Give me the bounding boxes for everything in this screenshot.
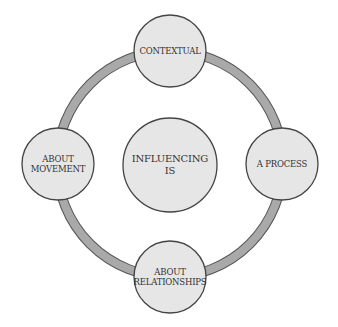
node-label-line: ABOUT: [42, 154, 73, 164]
node-label-contextual: CONTEXTUAL: [134, 15, 206, 87]
node-label-line: MOVEMENT: [31, 164, 85, 174]
node-label-line: CONTEXTUAL: [139, 46, 200, 56]
node-label-about-relationships: ABOUT RELATIONSHIPS: [132, 241, 208, 313]
node-label-about-movement: ABOUT MOVEMENT: [22, 128, 94, 200]
node-label-line: A PROCESS: [257, 159, 307, 169]
node-label-a-process: A PROCESS: [246, 128, 318, 200]
center-label-line-2: IS: [165, 165, 175, 177]
center-label-line-1: INFLUENCING: [132, 153, 208, 165]
node-label-line: ABOUT: [154, 267, 185, 277]
center-label: INFLUENCING IS: [123, 118, 217, 212]
node-label-line: RELATIONSHIPS: [134, 277, 207, 287]
